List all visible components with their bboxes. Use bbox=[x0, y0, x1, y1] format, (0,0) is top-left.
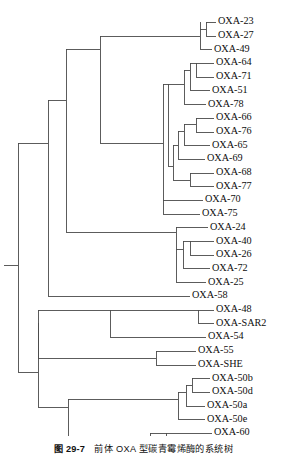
leaf-label-oxa-76: OXA-76 bbox=[216, 125, 252, 136]
leaf-label-oxa-68: OXA-68 bbox=[216, 166, 252, 177]
leaf-label-oxa-58: OXA-58 bbox=[192, 289, 228, 300]
leaf-label-oxa-50e: OXA-50e bbox=[207, 413, 248, 424]
leaf-label-oxa-60: OXA-60 bbox=[214, 426, 250, 436]
leaf-label-oxa-sar2: OXA-SAR2 bbox=[216, 317, 266, 328]
leaf-label-oxa-25: OXA-25 bbox=[208, 276, 244, 287]
leaf-label-oxa-50a: OXA-50a bbox=[207, 399, 248, 410]
tree-leaf-labels: OXA-23 OXA-27 OXA-49 OXA-64 OXA-71 OXA-5… bbox=[192, 15, 266, 436]
figure-caption-text: 前体 OXA 型碳青霉烯酶的系统树 bbox=[94, 444, 233, 454]
leaf-label-oxa-65: OXA-65 bbox=[212, 139, 248, 150]
leaf-label-oxa-55: OXA-55 bbox=[198, 344, 234, 355]
leaf-label-oxa-she: OXA-SHE bbox=[198, 358, 243, 369]
phylogenetic-tree: OXA-23 OXA-27 OXA-49 OXA-64 OXA-71 OXA-5… bbox=[0, 0, 287, 436]
leaf-label-oxa-70: OXA-70 bbox=[205, 193, 241, 204]
tree-branches bbox=[4, 22, 216, 436]
leaf-label-oxa-24: OXA-24 bbox=[210, 221, 246, 232]
leaf-label-oxa-77: OXA-77 bbox=[216, 180, 252, 191]
figure-container: OXA-23 OXA-27 OXA-49 OXA-64 OXA-71 OXA-5… bbox=[0, 0, 287, 461]
figure-number: 图 29-7 bbox=[54, 444, 85, 454]
leaf-label-oxa-49: OXA-49 bbox=[214, 43, 250, 54]
leaf-label-oxa-26: OXA-26 bbox=[216, 248, 252, 259]
leaf-label-oxa-51: OXA-51 bbox=[212, 84, 248, 95]
leaf-label-oxa-50d: OXA-50d bbox=[212, 385, 253, 396]
leaf-label-oxa-50b: OXA-50b bbox=[212, 372, 253, 383]
leaf-label-oxa-69: OXA-69 bbox=[207, 152, 243, 163]
leaf-label-oxa-23: OXA-23 bbox=[218, 15, 254, 26]
leaf-label-oxa-27: OXA-27 bbox=[218, 29, 254, 40]
leaf-label-oxa-54: OXA-54 bbox=[208, 330, 244, 341]
leaf-label-oxa-64: OXA-64 bbox=[216, 56, 252, 67]
figure-caption: 图 29-7前体 OXA 型碳青霉烯酶的系统树 bbox=[0, 437, 287, 461]
leaf-label-oxa-72: OXA-72 bbox=[212, 262, 248, 273]
leaf-label-oxa-48: OXA-48 bbox=[216, 303, 252, 314]
leaf-label-oxa-75: OXA-75 bbox=[202, 207, 238, 218]
leaf-label-oxa-78: OXA-78 bbox=[208, 98, 244, 109]
leaf-label-oxa-40: OXA-40 bbox=[216, 235, 252, 246]
leaf-label-oxa-66: OXA-66 bbox=[216, 111, 252, 122]
leaf-label-oxa-71: OXA-71 bbox=[216, 70, 252, 81]
